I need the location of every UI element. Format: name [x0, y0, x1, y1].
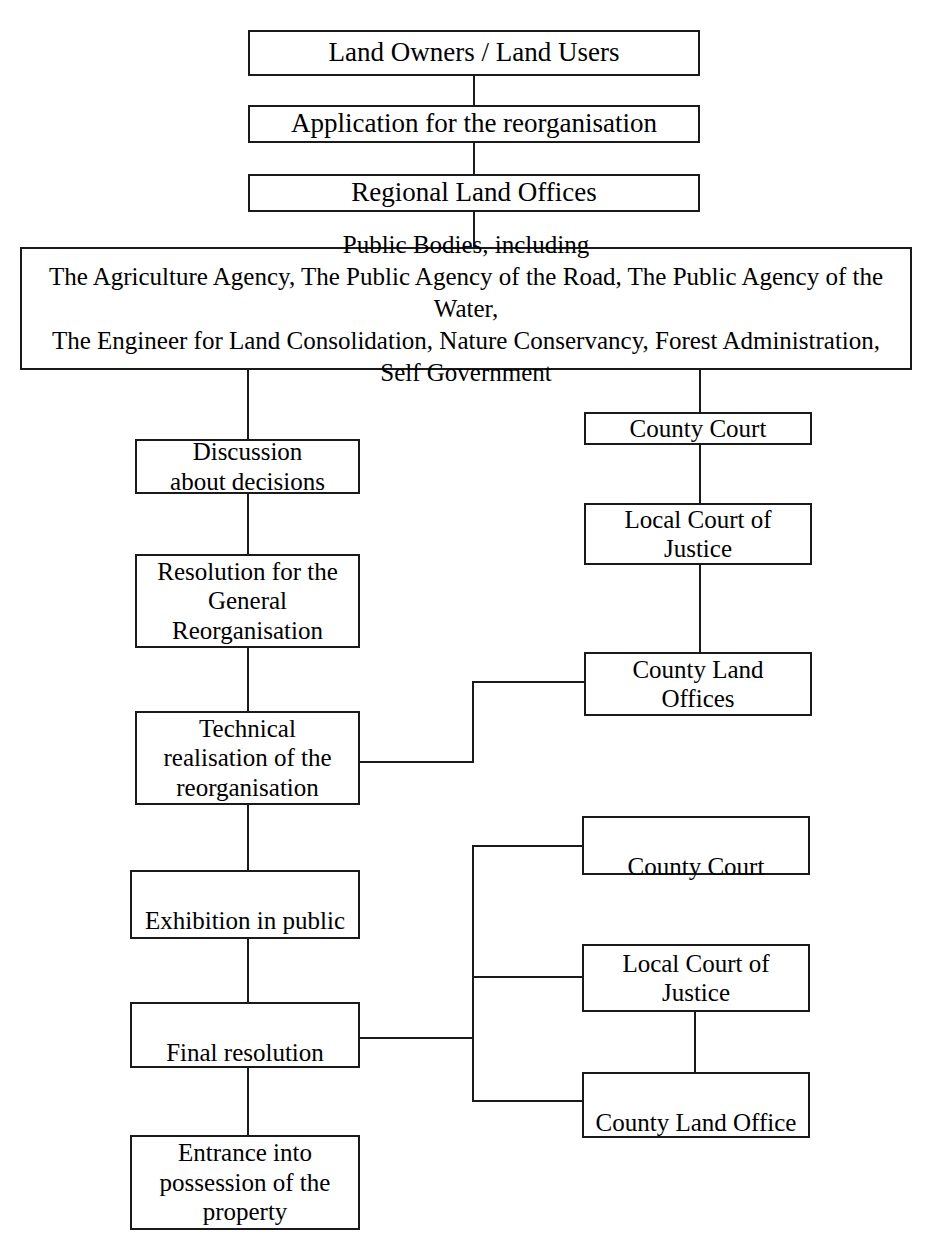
node-local-court-upper[interactable]: Local Court of Justice — [584, 503, 812, 565]
node-county-land-offices[interactable]: County Land Offices — [584, 652, 812, 716]
connector-local-court-to-county-land-office-lower — [694, 1012, 696, 1072]
node-public-bodies-label: Public Bodies, including The Agriculture… — [22, 229, 910, 389]
node-exhibition-in-public[interactable]: Exhibition in public — [130, 870, 360, 939]
node-county-land-office-label: County Land Office — [584, 1108, 808, 1138]
node-application[interactable]: Application for the reorganisation — [248, 105, 700, 143]
node-technical-realisation[interactable]: Technical realisation of the reorganisat… — [135, 711, 360, 805]
connector-bracket-spine-lower — [472, 845, 474, 1101]
node-entrance-possession[interactable]: Entrance into possession of the property — [130, 1135, 360, 1230]
node-application-label: Application for the reorganisation — [250, 108, 698, 140]
node-local-court-lower[interactable]: Local Court of Justice — [582, 944, 810, 1012]
connector-county-court-to-local-court-upper — [699, 445, 701, 503]
connector-bracket-to-local-court-lower — [472, 976, 584, 978]
node-resolution-general[interactable]: Resolution for the General Reorganisatio… — [135, 554, 360, 648]
connector-bracket-to-county-land-office — [472, 1100, 584, 1102]
node-resolution-general-label: Resolution for the General Reorganisatio… — [137, 557, 358, 646]
node-county-court-lower-label: County Court — [584, 852, 808, 882]
connector-bracket-to-county-court-lower — [472, 845, 584, 847]
node-county-land-offices-label: County Land Offices — [586, 655, 810, 714]
node-entrance-possession-label: Entrance into possession of the property — [132, 1138, 358, 1227]
node-local-court-upper-label: Local Court of Justice — [586, 505, 810, 564]
node-county-land-office[interactable]: County Land Office — [582, 1072, 810, 1138]
node-county-court-upper-label: County Court — [586, 414, 810, 444]
connector-resolution-to-technical — [247, 648, 249, 711]
node-regional-land-offices-label: Regional Land Offices — [250, 177, 698, 209]
node-land-owners-label: Land Owners / Land Users — [250, 37, 698, 69]
connector-local-court-to-county-land-offices-upper — [699, 565, 701, 652]
connector-technical-step-horizontal-lower — [360, 761, 474, 763]
connector-technical-step-vertical — [472, 681, 474, 763]
connector-technical-to-exhibition — [247, 805, 249, 870]
node-regional-land-offices[interactable]: Regional Land Offices — [248, 174, 700, 212]
connector-land-owners-to-application — [473, 76, 475, 105]
node-final-resolution[interactable]: Final resolution — [130, 1002, 360, 1068]
connector-discussion-to-resolution — [247, 494, 249, 554]
connector-application-to-regional — [473, 143, 475, 174]
node-public-bodies[interactable]: Public Bodies, including The Agriculture… — [20, 247, 912, 370]
flowchart-canvas: Land Owners / Land Users Application for… — [0, 0, 944, 1243]
node-county-court-upper[interactable]: County Court — [584, 412, 812, 445]
node-local-court-lower-label: Local Court of Justice — [584, 949, 808, 1008]
node-final-resolution-label: Final resolution — [132, 1038, 358, 1068]
node-discussion-label: Discussion about decisions — [137, 437, 358, 496]
node-technical-realisation-label: Technical realisation of the reorganisat… — [137, 714, 358, 803]
node-discussion[interactable]: Discussion about decisions — [135, 439, 360, 494]
node-exhibition-in-public-label: Exhibition in public — [132, 906, 358, 936]
node-land-owners[interactable]: Land Owners / Land Users — [248, 30, 700, 76]
connector-technical-step-horizontal-upper — [472, 681, 584, 683]
node-county-court-lower[interactable]: County Court — [582, 816, 810, 875]
connector-final-resolution-stem — [360, 1037, 474, 1039]
